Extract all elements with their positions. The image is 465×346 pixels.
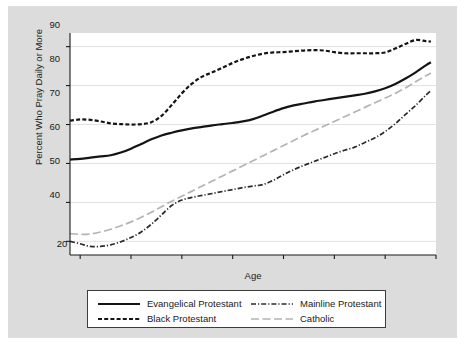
legend-swatch-dashed — [98, 313, 140, 325]
legend-label-evangelical-protestant: Evangelical Protestant — [147, 298, 242, 310]
legend-entry-mainline-protestant: Mainline Protestant — [251, 296, 381, 312]
legend-swatch-solid — [98, 298, 140, 310]
legend: Evangelical Protestant Black Protestant … — [87, 290, 386, 328]
legend-swatch-dashdot — [251, 298, 293, 310]
plot-svg — [8, 6, 457, 266]
legend-label-black-protestant: Black Protestant — [147, 313, 216, 325]
chart-screenshot: Percent Who Pray Daily or More 90 80 70 … — [0, 0, 465, 346]
legend-entry-evangelical-protestant: Evangelical Protestant — [98, 296, 242, 312]
legend-label-catholic: Catholic — [300, 313, 334, 325]
plot-background — [70, 33, 436, 255]
legend-entry-catholic: Catholic — [251, 311, 334, 327]
legend-label-mainline-protestant: Mainline Protestant — [300, 298, 381, 310]
legend-swatch-longdash — [251, 313, 293, 325]
legend-entry-black-protestant: Black Protestant — [98, 311, 216, 327]
x-axis-title: Age — [70, 270, 436, 281]
graph-region: Percent Who Pray Daily or More 90 80 70 … — [8, 6, 457, 338]
